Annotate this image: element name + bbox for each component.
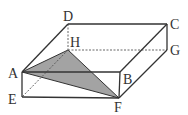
edge-ef bbox=[22, 97, 119, 98]
edge-fb bbox=[119, 72, 120, 98]
edge-bc bbox=[120, 24, 167, 72]
label-b: B bbox=[123, 72, 132, 87]
cuboid-diagram: D C H G A B E F bbox=[0, 0, 188, 115]
label-f: F bbox=[114, 100, 122, 115]
label-d: D bbox=[63, 9, 73, 24]
label-h: H bbox=[70, 35, 80, 50]
label-c: C bbox=[170, 17, 179, 32]
label-g: G bbox=[170, 43, 180, 58]
label-a: A bbox=[8, 66, 19, 81]
label-e: E bbox=[8, 92, 17, 107]
